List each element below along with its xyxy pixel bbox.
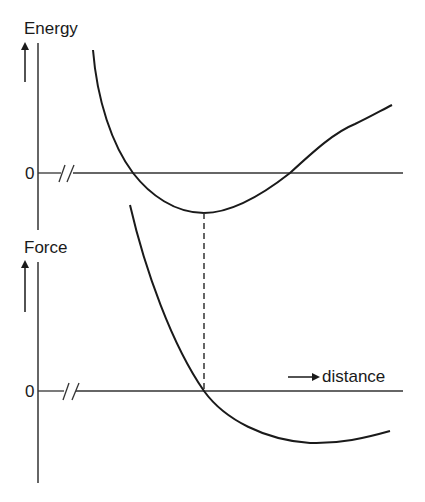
energy-curve	[93, 50, 392, 213]
force-axis-label: Force	[24, 239, 67, 256]
energy-panel	[25, 43, 403, 230]
energy-zero-label: 0	[25, 165, 34, 182]
distance-axis-label: distance	[322, 368, 385, 385]
force-zero-label: 0	[25, 383, 34, 400]
force-panel	[25, 205, 403, 483]
axis-break-mark	[67, 165, 74, 182]
force-curve	[130, 205, 390, 443]
energy-axis-label: Energy	[24, 20, 78, 37]
